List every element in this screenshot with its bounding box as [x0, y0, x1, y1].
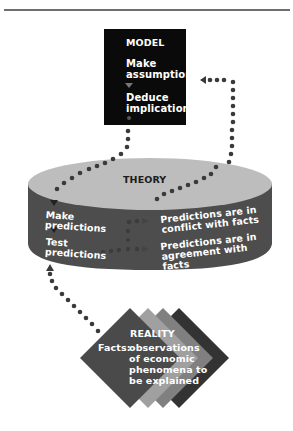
reality-facts-line-3: phenomena to — [129, 364, 207, 375]
theory-step-test-predictions: Test predictions — [45, 237, 96, 260]
theory-step-make-predictions: Make predictions — [45, 210, 96, 233]
reality-facts-line-2: of economic — [129, 353, 195, 364]
model-title: MODEL — [126, 37, 164, 48]
reality-facts-line-1: observations — [129, 342, 200, 353]
dot-icon — [127, 116, 131, 120]
reality-facts-label: Facts: — [98, 342, 131, 353]
model-step-deduce-implications: Deduce implications — [126, 92, 188, 114]
model-step-make-assumptions: Make assumptions — [126, 58, 188, 80]
dotted-path-reality-to-test — [48, 272, 101, 334]
up-arrow-icon — [46, 264, 54, 271]
theory-title: THEORY — [123, 174, 166, 185]
reality-facts-line-4: be explained — [129, 375, 199, 386]
reality-title: REALITY — [130, 328, 175, 339]
left-arrow-icon — [200, 76, 206, 84]
